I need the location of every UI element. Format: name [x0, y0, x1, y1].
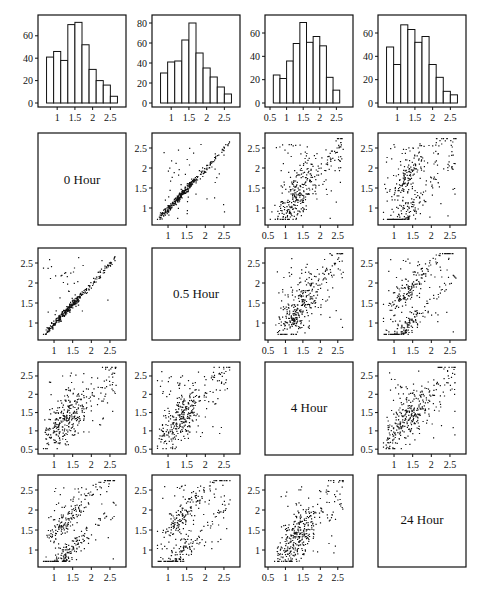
x-tick-label: 1: [55, 112, 60, 123]
x-tick-label: 2: [318, 572, 323, 583]
x-tick-label: 2: [203, 230, 208, 241]
x-tick-label: 2: [318, 230, 323, 241]
y-tick-label: 1: [368, 425, 373, 436]
histogram-bar: [203, 68, 210, 103]
histogram-bar: [387, 47, 394, 103]
histogram-bar: [273, 75, 280, 103]
x-tick-label: 1: [283, 572, 288, 583]
x-tick-label: 2.5: [104, 345, 117, 356]
x-tick-label: 2.5: [332, 572, 345, 583]
histogram-bar: [175, 61, 182, 103]
x-tick-label: 2: [89, 459, 94, 470]
histogram-bar: [96, 81, 103, 103]
scatter-24-hour-vs-0-hour: 11.522.511.522.5: [21, 475, 127, 583]
x-tick-label: 2: [203, 459, 208, 470]
histogram-bar: [47, 57, 54, 103]
histogram-bar: [320, 46, 327, 103]
histogram-0.5-hour: 02040608011.522.5: [137, 15, 240, 123]
histogram-bar: [408, 30, 415, 104]
histogram-bar: [293, 44, 300, 104]
x-tick-label: 1.5: [69, 112, 82, 123]
x-tick-label: 1.5: [180, 459, 193, 470]
x-tick-label: 1: [395, 112, 400, 123]
x-tick-label: 2.5: [104, 112, 117, 123]
x-tick-label: 1: [284, 112, 289, 123]
y-tick-label: 1: [28, 545, 33, 556]
y-tick-label: 2: [142, 389, 147, 400]
x-tick-label: 2.5: [218, 230, 231, 241]
x-tick-label: 1: [392, 345, 397, 356]
histogram-bar: [333, 90, 340, 103]
y-tick-label: 0.5: [21, 444, 34, 455]
histogram-bar: [300, 23, 307, 104]
y-tick-label: 40: [250, 51, 260, 62]
x-tick-label: 2.5: [444, 112, 457, 123]
histogram-bar: [168, 62, 175, 103]
diagonal-label-24-hour: 24 Hour: [401, 512, 445, 527]
scatter-0.5-hour-vs-0-hour: 11.522.511.522.5: [21, 248, 127, 356]
y-tick-label: 2: [255, 278, 260, 289]
x-tick-label: 1: [52, 572, 57, 583]
scatterplot-matrix: 020406011.522.502040608011.522.502040600…: [0, 0, 487, 597]
y-tick-label: 2: [142, 505, 147, 516]
y-tick-label: 1: [255, 318, 260, 329]
histogram-bar: [287, 61, 294, 103]
y-tick-label: 2.5: [248, 485, 261, 496]
y-tick-label: 2.5: [21, 485, 34, 496]
y-tick-label: 60: [250, 28, 260, 39]
x-tick-label: 1: [392, 230, 397, 241]
histogram-bar: [161, 73, 168, 103]
y-tick-label: 2.5: [361, 143, 374, 154]
x-tick-label: 1.5: [297, 345, 310, 356]
y-tick-label: 1.5: [21, 298, 34, 309]
y-tick-label: 2: [368, 278, 373, 289]
histogram-bar: [436, 77, 443, 103]
y-tick-label: 80: [137, 18, 147, 29]
histogram-bar: [450, 95, 457, 103]
x-tick-label: 2: [317, 112, 322, 123]
histogram-bar: [61, 60, 68, 103]
x-tick-label: 1: [283, 230, 288, 241]
x-tick-label: 2.5: [104, 572, 117, 583]
histogram-bar: [217, 87, 224, 103]
x-tick-label: 1: [166, 230, 171, 241]
x-tick-label: 1.5: [180, 572, 193, 583]
y-tick-label: 1.5: [361, 298, 374, 309]
scatter-24-hour-vs-4-hour: 11.522.50.511.522.5: [248, 475, 354, 583]
histogram-bar: [443, 91, 450, 103]
histogram-bar: [89, 69, 96, 103]
y-tick-label: 1: [255, 545, 260, 556]
y-tick-label: 20: [137, 78, 147, 89]
x-tick-label: 2: [429, 459, 434, 470]
x-tick-label: 1.5: [66, 572, 79, 583]
x-tick-label: 2.5: [218, 112, 231, 123]
diagonal-label-0-hour: 0 Hour: [64, 172, 101, 187]
y-tick-label: 1: [28, 318, 33, 329]
histogram-bar: [326, 77, 333, 103]
histogram-bar: [103, 85, 110, 103]
x-tick-label: 0.5: [264, 112, 277, 123]
scatter-4-hour-vs-0-hour: 0.511.522.511.522.5: [21, 362, 127, 470]
x-tick-label: 1: [392, 459, 397, 470]
histogram-bar: [415, 42, 422, 103]
histogram-bar: [82, 45, 89, 103]
x-tick-label: 1.5: [297, 230, 310, 241]
x-tick-label: 2: [318, 345, 323, 356]
x-tick-label: 0.5: [262, 345, 275, 356]
x-tick-label: 1.5: [406, 230, 419, 241]
y-tick-label: 60: [137, 38, 147, 49]
scatter-0.5-hour-vs-4-hour: 11.522.50.511.522.5: [248, 248, 354, 356]
x-tick-label: 2.5: [332, 345, 345, 356]
histogram-bar: [224, 94, 231, 103]
x-tick-label: 0.5: [262, 230, 275, 241]
y-tick-label: 2.5: [135, 370, 148, 381]
y-tick-label: 60: [363, 28, 373, 39]
y-tick-label: 2.5: [21, 370, 34, 381]
y-tick-label: 0: [368, 98, 373, 109]
histogram-row: 020406011.522.502040608011.522.502040600…: [23, 15, 466, 123]
histogram-bar: [394, 65, 401, 104]
y-tick-label: 2.5: [135, 485, 148, 496]
histogram-bar: [307, 42, 314, 103]
y-tick-label: 1: [255, 203, 260, 214]
histogram-bar: [196, 53, 203, 103]
